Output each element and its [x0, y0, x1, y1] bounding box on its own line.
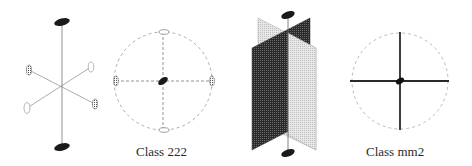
class-222-stereogram — [114, 30, 215, 133]
open-lens-icon — [24, 103, 30, 114]
open-lens-icon — [159, 128, 169, 133]
crystal-class-diagram — [0, 0, 472, 166]
class-222-axes-3d — [24, 17, 98, 153]
mirror-plane-light-front — [288, 33, 316, 150]
class-mm2-label: Class mm2 — [366, 144, 424, 160]
open-lens-icon — [88, 62, 94, 72]
hatched-lens-icon — [210, 76, 215, 86]
class-mm2-stereogram — [350, 32, 449, 130]
class-mm2-planes-3d — [252, 9, 316, 158]
open-lens-icon — [159, 30, 169, 35]
class-222-label: Class 222 — [136, 144, 187, 160]
hatched-lens-icon — [93, 99, 98, 109]
hatched-lens-icon — [27, 65, 32, 75]
hatched-lens-icon — [114, 76, 119, 86]
axis-b — [27, 67, 91, 108]
